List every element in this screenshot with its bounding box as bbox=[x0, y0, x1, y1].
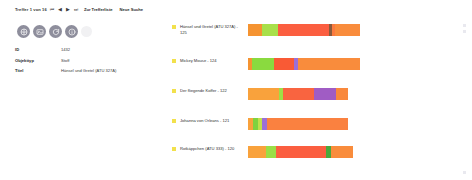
list-item-label[interactable]: Johanna von Orleans - 121 bbox=[180, 118, 242, 124]
link-result-list[interactable]: Zur Trefferliste bbox=[84, 7, 113, 12]
list-item-label[interactable]: Mickey Mouse - 124 bbox=[180, 58, 242, 64]
list-item[interactable]: Rotkäppchen (ATU 333) - 120 bbox=[165, 146, 450, 158]
metadata-value-id: 1432 bbox=[61, 47, 70, 52]
list-item-label[interactable]: Rotkäppchen (ATU 333) - 120 bbox=[180, 146, 242, 152]
color-bar-segment bbox=[298, 58, 360, 70]
metadata-value-titel: Hänsel und Gretel (ATU 327A) bbox=[61, 68, 116, 73]
color-bar-segment bbox=[267, 118, 348, 130]
link-new-search[interactable]: Neue Suche bbox=[120, 7, 143, 12]
image-icon bbox=[36, 28, 44, 36]
info-button[interactable] bbox=[65, 25, 78, 38]
list-item[interactable]: Hänsel und Gretel (ATU 327A) - 125 bbox=[165, 24, 450, 36]
list-item[interactable]: Der fliegende Koffer - 122 bbox=[165, 88, 450, 100]
color-bar-segment bbox=[335, 24, 360, 36]
color-bar-segment bbox=[336, 88, 348, 100]
color-bar-segment bbox=[276, 146, 326, 158]
table-row: Titel Hänsel und Gretel (ATU 327A) bbox=[15, 68, 160, 73]
scrollbar-mark[interactable] bbox=[463, 30, 466, 33]
color-bar-segment bbox=[248, 24, 262, 36]
list-item-color-bar bbox=[248, 24, 360, 36]
first-result-button[interactable]: ⏮ bbox=[50, 7, 55, 12]
share-button[interactable] bbox=[17, 25, 30, 38]
result-counter: Treffer 1 von 16 bbox=[15, 7, 47, 12]
metadata-table: ID 1432 Objekttyp Stoff Titel Hänsel und… bbox=[15, 47, 160, 79]
list-item-color-bar bbox=[248, 146, 353, 158]
color-bar-segment bbox=[262, 24, 278, 36]
list-item-bullet-icon bbox=[172, 89, 176, 93]
color-bar-segment bbox=[274, 58, 294, 70]
metadata-label-id: ID bbox=[15, 47, 61, 52]
last-result-button[interactable]: ⏭ bbox=[74, 7, 79, 12]
action-toolbar bbox=[17, 25, 92, 38]
previous-result-button[interactable]: ◀ bbox=[58, 7, 63, 12]
color-bar-segment bbox=[252, 58, 274, 70]
results-list[interactable]: Hänsel und Gretel (ATU 327A) - 125Mickey… bbox=[165, 0, 450, 180]
list-item-color-bar bbox=[248, 58, 360, 70]
refresh-button[interactable] bbox=[49, 25, 62, 38]
list-item-bullet-icon bbox=[172, 147, 176, 151]
list-item-label[interactable]: Der fliegende Koffer - 122 bbox=[180, 88, 242, 94]
color-bar-segment bbox=[248, 88, 279, 100]
color-bar-segment bbox=[314, 88, 336, 100]
info-icon bbox=[68, 28, 76, 36]
metadata-label-objekttyp: Objekttyp bbox=[15, 58, 61, 63]
refresh-icon bbox=[52, 28, 60, 36]
share-icon bbox=[20, 28, 28, 36]
list-item-color-bar bbox=[248, 88, 348, 100]
color-bar-segment bbox=[278, 24, 329, 36]
table-row: ID 1432 bbox=[15, 47, 160, 52]
metadata-value-objekttyp: Stoff bbox=[61, 58, 69, 63]
list-item-color-bar bbox=[248, 118, 348, 130]
list-item-label[interactable]: Hänsel und Gretel (ATU 327A) - 125 bbox=[180, 24, 242, 35]
list-item-bullet-icon bbox=[172, 59, 176, 63]
scrollbar-mark[interactable] bbox=[463, 171, 466, 174]
list-item[interactable]: Johanna von Orleans - 121 bbox=[165, 118, 450, 130]
list-item-bullet-icon bbox=[172, 25, 176, 29]
metadata-label-titel: Titel bbox=[15, 68, 61, 73]
color-bar-segment bbox=[331, 146, 353, 158]
scrollbar-mark[interactable] bbox=[463, 24, 466, 27]
color-bar-segment bbox=[283, 88, 314, 100]
list-item-bullet-icon bbox=[172, 119, 176, 123]
next-result-button[interactable]: ▶ bbox=[66, 7, 71, 12]
detail-pane: Treffer 1 von 16 ⏮ ◀ ▶ ⏭ Zur Trefferlist… bbox=[0, 0, 165, 180]
list-item[interactable]: Mickey Mouse - 124 bbox=[165, 58, 450, 70]
color-bar-segment bbox=[248, 146, 266, 158]
result-navigation: Treffer 1 von 16 ⏮ ◀ ▶ ⏭ Zur Trefferlist… bbox=[15, 7, 143, 12]
image-button[interactable] bbox=[33, 25, 46, 38]
color-bar-segment bbox=[266, 146, 276, 158]
table-row: Objekttyp Stoff bbox=[15, 58, 160, 63]
toolbar-placeholder bbox=[81, 26, 92, 37]
